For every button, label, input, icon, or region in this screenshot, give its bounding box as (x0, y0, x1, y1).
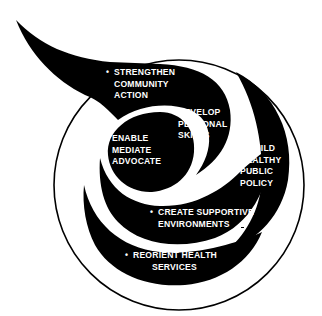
bullet-icon: • (150, 207, 158, 219)
label-line: PUBLIC (240, 166, 273, 176)
label-create-supportive-environments: •CREATE SUPPORTIVE ENVIRONMENTS (150, 207, 254, 230)
label-line: POLICY (240, 178, 273, 188)
label-line: PERSONAL (178, 119, 227, 129)
label-build-healthy-public-policy: •BUILD HEALTHY PUBLIC POLICY (240, 143, 281, 189)
bullet-icon: • (240, 143, 248, 155)
label-line: REORIENT HEALTH (133, 250, 217, 260)
label-line: HEALTHY (240, 155, 281, 165)
label-strengthen-community-action: •STRENGTHEN COMMUNITY ACTION (106, 67, 175, 102)
bullet-icon: • (170, 107, 178, 119)
label-center-enable-mediate-advocate: •ENABLE •MEDIATE •ADVOCATE (104, 133, 161, 168)
label-line: ENABLE (112, 133, 149, 143)
label-develop-personal-skills: •DEVELOP PERSONAL SKILLS (170, 107, 227, 142)
bullet-icon: • (104, 145, 112, 157)
label-line: STRENGTHEN (114, 67, 175, 77)
label-line: MEDIATE (112, 145, 151, 155)
label-line: CREATE SUPPORTIVE (158, 207, 254, 217)
bullet-icon: • (104, 156, 112, 168)
bullet-icon: • (125, 250, 133, 262)
label-line: ENVIRONMENTS (158, 219, 230, 229)
bullet-icon: • (104, 133, 112, 145)
label-line: ACTION (114, 90, 148, 100)
bullet-icon: • (106, 67, 114, 79)
label-line: COMMUNITY (114, 79, 169, 89)
label-line: SERVICES (152, 262, 197, 272)
label-line: BUILD (248, 143, 275, 153)
label-line: SKILLS (178, 130, 210, 140)
label-line: ADVOCATE (112, 156, 161, 166)
label-line: DEVELOP (178, 107, 220, 117)
label-reorient-health-services: •REORIENT HEALTH SERVICES (125, 250, 217, 273)
health-promotion-diagram: •STRENGTHEN COMMUNITY ACTION •DEVELOP PE… (0, 0, 322, 316)
